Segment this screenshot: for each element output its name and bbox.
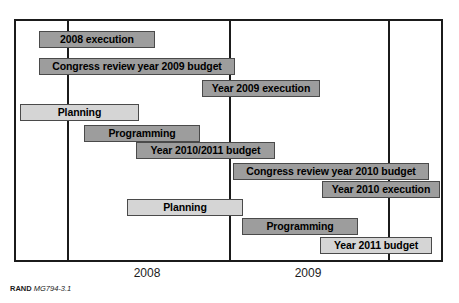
x-axis-tick-label: 2009 bbox=[295, 266, 322, 280]
chart-gridline-1 bbox=[67, 21, 69, 260]
gantt-bar: Planning bbox=[127, 199, 243, 216]
gantt-bar: Congress review year 2009 budget bbox=[39, 58, 235, 75]
figure-credit-org: RAND bbox=[10, 284, 32, 293]
gantt-figure: RAND MG794-3.1 2008 executionCongress re… bbox=[0, 0, 459, 303]
gantt-bar-label: Programming bbox=[243, 221, 357, 232]
gantt-bar-label: Year 2010 execution bbox=[323, 184, 439, 195]
gantt-bar-label: Planning bbox=[128, 202, 242, 213]
x-axis-tick-label: 2008 bbox=[134, 266, 161, 280]
figure-credit: RAND MG794-3.1 bbox=[10, 284, 71, 293]
chart-gridline-3 bbox=[388, 21, 390, 260]
chart-gridline-2 bbox=[229, 21, 231, 260]
gantt-bar: Planning bbox=[20, 104, 139, 121]
gantt-bar-label: Congress review year 2009 budget bbox=[40, 61, 234, 72]
chart-plot-area bbox=[14, 19, 443, 262]
gantt-bar: Year 2009 execution bbox=[202, 80, 320, 97]
gantt-bar-label: Planning bbox=[21, 107, 138, 118]
gantt-bar-label: 2008 execution bbox=[40, 34, 154, 45]
gantt-bar-label: Programming bbox=[85, 128, 199, 139]
gantt-bar: Year 2011 budget bbox=[320, 237, 432, 254]
gantt-bar-label: Year 2011 budget bbox=[321, 240, 431, 251]
gantt-bar: Programming bbox=[84, 125, 200, 142]
gantt-bar-label: Year 2010/2011 budget bbox=[137, 145, 274, 156]
gantt-bar: Year 2010 execution bbox=[322, 181, 440, 198]
gantt-bar: Congress review year 2010 budget bbox=[233, 163, 429, 180]
gantt-bar-label: Congress review year 2010 budget bbox=[234, 166, 428, 177]
gantt-bar-label: Year 2009 execution bbox=[203, 83, 319, 94]
gantt-bar: 2008 execution bbox=[39, 31, 155, 48]
figure-credit-id: MG794-3.1 bbox=[34, 284, 72, 293]
gantt-bar: Programming bbox=[242, 218, 358, 235]
gantt-bar: Year 2010/2011 budget bbox=[136, 142, 275, 159]
